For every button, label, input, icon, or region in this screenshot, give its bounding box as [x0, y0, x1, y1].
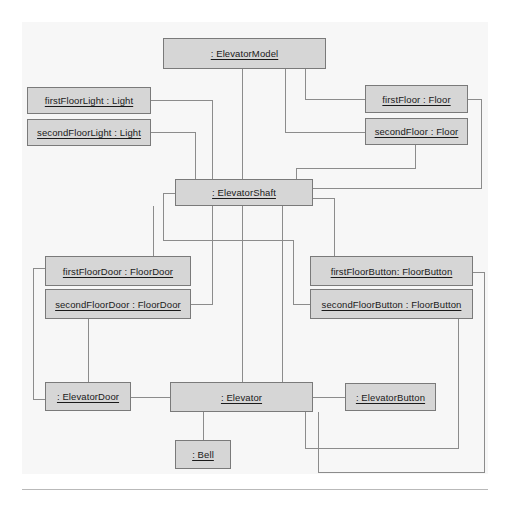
object-label-firstFloor: firstFloor : Floor — [382, 94, 450, 105]
diagram-canvas: : ElevatorModelfirstFloorLight : Lightse… — [0, 0, 508, 505]
object-box-firstFloorLight[interactable]: firstFloorLight : Light — [27, 87, 151, 114]
object-box-firstFloor[interactable]: firstFloor : Floor — [365, 85, 468, 113]
object-box-elevatorShaft[interactable]: : ElevatorShaft — [175, 179, 313, 206]
object-label-secondFloorButton: secondFloorButton : FloorButton — [322, 299, 462, 310]
object-box-bell[interactable]: : Bell — [175, 440, 231, 469]
object-box-elevatorDoor[interactable]: : ElevatorDoor — [45, 382, 131, 411]
bottom-divider-rule — [22, 489, 488, 490]
object-label-secondFloor: secondFloor : Floor — [375, 126, 459, 137]
object-box-secondFloorDoor[interactable]: secondFloorDoor : FloorDoor — [45, 289, 191, 319]
object-label-firstFloorButton: firstFloorButton: FloorButton — [331, 266, 453, 277]
object-box-secondFloorButton[interactable]: secondFloorButton : FloorButton — [310, 289, 473, 319]
object-label-elevatorModel: : ElevatorModel — [211, 48, 279, 59]
object-box-secondFloor[interactable]: secondFloor : Floor — [365, 118, 468, 145]
object-box-secondFloorLight[interactable]: secondFloorLight : Light — [27, 119, 151, 146]
object-label-elevatorDoor: : ElevatorDoor — [57, 391, 119, 402]
object-label-secondFloorLight: secondFloorLight : Light — [37, 127, 141, 138]
object-box-elevatorButton[interactable]: : ElevatorButton — [345, 383, 436, 411]
object-label-bell: : Bell — [192, 449, 214, 460]
object-label-secondFloorDoor: secondFloorDoor : FloorDoor — [55, 299, 181, 310]
object-box-firstFloorButton[interactable]: firstFloorButton: FloorButton — [310, 256, 473, 286]
object-label-firstFloorDoor: firstFloorDoor : FloorDoor — [63, 266, 173, 277]
object-label-elevatorButton: : ElevatorButton — [356, 392, 425, 403]
object-label-firstFloorLight: firstFloorLight : Light — [45, 95, 133, 106]
object-box-elevatorModel[interactable]: : ElevatorModel — [163, 38, 326, 69]
object-box-firstFloorDoor[interactable]: firstFloorDoor : FloorDoor — [45, 256, 191, 286]
object-label-elevator: : Elevator — [221, 392, 262, 403]
object-label-elevatorShaft: : ElevatorShaft — [212, 187, 276, 198]
object-box-elevator[interactable]: : Elevator — [170, 382, 313, 412]
